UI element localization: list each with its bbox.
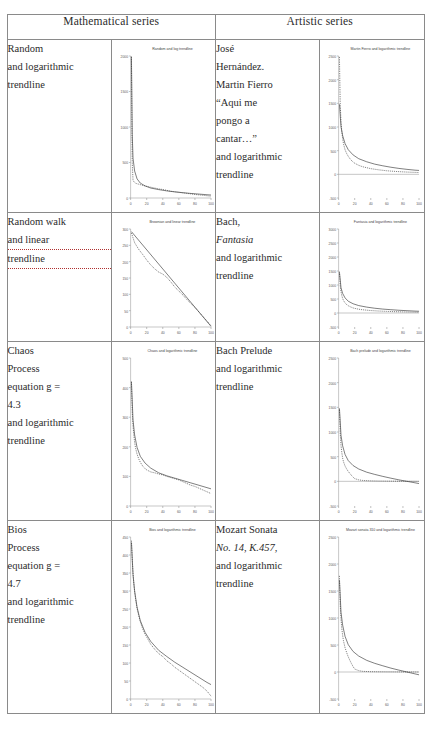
svg-text:2500: 2500 xyxy=(329,242,337,246)
svg-text:80: 80 xyxy=(401,202,405,206)
label-line: trendline xyxy=(8,611,111,629)
svg-text:150: 150 xyxy=(122,277,128,281)
label-line: Random xyxy=(8,40,111,58)
table-row: Random walk and linear trendline 0501001… xyxy=(7,213,424,342)
svg-text:2500: 2500 xyxy=(329,357,337,361)
label-line: trendline xyxy=(8,250,111,269)
svg-text:20: 20 xyxy=(145,703,149,707)
svg-text:200: 200 xyxy=(122,446,128,450)
svg-text:0: 0 xyxy=(334,312,336,316)
svg-text:100: 100 xyxy=(208,703,214,707)
label-line: equation g = xyxy=(8,557,111,575)
label-line: “Aqui me xyxy=(216,94,319,112)
svg-text:80: 80 xyxy=(193,202,197,206)
chart-cell-random-log: 0500100015002000020406080100Random and l… xyxy=(111,40,215,213)
svg-text:300: 300 xyxy=(122,228,128,232)
svg-text:500: 500 xyxy=(122,161,128,165)
svg-text:500: 500 xyxy=(331,455,337,459)
svg-text:100: 100 xyxy=(416,331,422,335)
svg-text:60: 60 xyxy=(177,510,181,514)
svg-text:1500: 1500 xyxy=(329,406,337,410)
svg-text:450: 450 xyxy=(122,536,128,540)
svg-text:20: 20 xyxy=(353,703,357,707)
svg-text:300: 300 xyxy=(122,590,128,594)
svg-text:-500: -500 xyxy=(330,698,337,702)
label-line: Bios xyxy=(8,521,111,539)
svg-text:0: 0 xyxy=(338,331,340,335)
svg-text:1000: 1000 xyxy=(120,126,128,130)
svg-text:Brownian and linear trendline: Brownian and linear trendline xyxy=(149,219,195,224)
chart-bios-log: 050100150200250300350400450020406080100B… xyxy=(112,521,215,713)
svg-text:2000: 2000 xyxy=(329,78,337,82)
label-line: trendline xyxy=(8,432,111,450)
label-line: No. 14, K.457, xyxy=(216,539,319,557)
chart-randomwalk-linear: 050100150200250300020406080100Brownian a… xyxy=(112,213,215,341)
chart-bach-prelude-log: -50005001000150020002500020406080100Bach… xyxy=(320,342,423,520)
svg-text:-500: -500 xyxy=(330,197,337,201)
label-line: and logarithmic xyxy=(8,593,111,611)
label-line: trendline xyxy=(216,166,319,184)
svg-text:80: 80 xyxy=(401,331,405,335)
svg-text:Fantasia and logarithmic trend: Fantasia and logarithmic trendline xyxy=(354,219,407,224)
svg-text:0: 0 xyxy=(126,505,128,509)
label-line: trendline xyxy=(216,378,319,396)
label-line: 4.7 xyxy=(8,575,111,593)
svg-text:3000: 3000 xyxy=(329,228,337,232)
label-mozart-sonata: Mozart Sonata No. 14, K.457, and logarit… xyxy=(216,521,320,714)
svg-text:60: 60 xyxy=(177,331,181,335)
chart-cell-chaos: 0100200300400500020406080100Chaos and lo… xyxy=(111,342,215,521)
svg-text:60: 60 xyxy=(177,202,181,206)
svg-text:60: 60 xyxy=(177,703,181,707)
chart-cell-fantasia: -500050010001500200025003000020406080100… xyxy=(320,213,424,342)
svg-text:60: 60 xyxy=(385,703,389,707)
svg-text:40: 40 xyxy=(161,202,165,206)
label-bios-process: Bios Process equation g = 4.7 and logari… xyxy=(7,521,111,714)
svg-text:40: 40 xyxy=(369,703,373,707)
header-artistic-series: Artistic series xyxy=(216,15,425,40)
svg-text:20: 20 xyxy=(353,331,357,335)
svg-text:500: 500 xyxy=(331,149,337,153)
svg-text:0: 0 xyxy=(129,703,131,707)
chart-mozart-sonata-log: -50005001000150020002500020406080100Moza… xyxy=(320,521,423,713)
label-line: pongo a xyxy=(216,112,319,130)
svg-text:100: 100 xyxy=(416,510,422,514)
svg-text:100: 100 xyxy=(122,662,128,666)
svg-text:0: 0 xyxy=(126,698,128,702)
svg-text:40: 40 xyxy=(369,510,373,514)
label-line: Fantasia xyxy=(216,231,319,249)
svg-text:2000: 2000 xyxy=(329,563,337,567)
label-random-log: Random and logarithmic trendline xyxy=(7,40,111,213)
chart-fantasia-log: -500050010001500200025003000020406080100… xyxy=(320,213,423,341)
svg-text:1000: 1000 xyxy=(329,284,337,288)
svg-text:0: 0 xyxy=(338,202,340,206)
svg-text:-500: -500 xyxy=(330,505,337,509)
svg-text:100: 100 xyxy=(122,475,128,479)
svg-text:2500: 2500 xyxy=(329,55,337,59)
label-line: and logarithmic xyxy=(8,58,111,76)
label-line: and logarithmic xyxy=(8,414,111,432)
chart-martin-fierro-log: -50005001000150020002500020406080100Mart… xyxy=(320,40,423,212)
svg-text:0: 0 xyxy=(334,480,336,484)
svg-text:Bios and logarithmic trendline: Bios and logarithmic trendline xyxy=(149,527,195,532)
svg-text:80: 80 xyxy=(401,510,405,514)
label-line: and logarithmic xyxy=(216,249,319,267)
svg-text:300: 300 xyxy=(122,416,128,420)
chart-cell-bach-prelude: -50005001000150020002500020406080100Bach… xyxy=(320,342,424,521)
svg-text:Bach prelude and logarithmic t: Bach prelude and logarithmic trendline xyxy=(350,348,410,353)
label-random-walk-linear: Random walk and linear trendline xyxy=(7,213,111,342)
svg-text:1500: 1500 xyxy=(120,90,128,94)
chart-cell-martin-fierro: -50005001000150020002500020406080100Mart… xyxy=(320,40,424,213)
label-text: Bach Prelude xyxy=(216,345,272,356)
svg-text:40: 40 xyxy=(369,331,373,335)
svg-text:0: 0 xyxy=(338,703,340,707)
svg-text:0: 0 xyxy=(338,510,340,514)
label-line: José xyxy=(216,40,319,58)
svg-text:100: 100 xyxy=(208,331,214,335)
label-line: Chaos xyxy=(8,342,111,360)
label-line: Random walk xyxy=(8,213,111,231)
label-line: Mozart Sonata xyxy=(216,521,319,539)
svg-text:80: 80 xyxy=(401,703,405,707)
svg-text:40: 40 xyxy=(161,703,165,707)
svg-text:1000: 1000 xyxy=(329,126,337,130)
label-line: and logarithmic xyxy=(216,557,319,575)
